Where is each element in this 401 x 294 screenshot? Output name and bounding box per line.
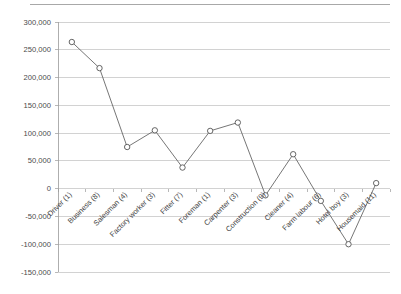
y-axis-tick-label: 300,000	[24, 18, 51, 27]
data-point-marker[interactable]	[97, 65, 102, 70]
data-point-marker[interactable]	[180, 165, 185, 170]
gridlines-group	[58, 22, 390, 272]
x-axis-category-labels: Driver (1)Business (8)Salesman (4)Factor…	[45, 190, 377, 239]
y-axis-tick-label: 50,000	[28, 156, 51, 165]
y-axis-tick-labels: 300,000250,000200,000150,000100,00050,00…	[21, 18, 51, 277]
x-axis-category-label: Driver (1)	[45, 190, 73, 218]
y-axis-tick-label: -150,000	[21, 268, 51, 277]
y-axis-tick-label: 250,000	[24, 45, 51, 54]
y-axis-tick-label: -100,000	[21, 240, 51, 249]
y-axis-tick-label: 100,000	[24, 129, 51, 138]
data-series-markers	[69, 39, 379, 247]
data-point-marker[interactable]	[235, 120, 240, 125]
data-point-marker[interactable]	[124, 144, 129, 149]
data-point-marker[interactable]	[152, 128, 157, 133]
chart-container: 300,000250,000200,000150,000100,00050,00…	[0, 0, 401, 294]
x-axis-tick-marks	[58, 189, 390, 192]
data-point-marker[interactable]	[373, 180, 378, 185]
data-point-marker[interactable]	[69, 39, 74, 44]
line-chart-plot: 300,000250,000200,000150,000100,00050,00…	[0, 0, 401, 294]
x-axis-category-label: Fitter (7)	[158, 190, 184, 216]
data-point-marker[interactable]	[207, 128, 212, 133]
y-axis-tick-label: 200,000	[24, 73, 51, 82]
y-axis-tick-label: 150,000	[24, 101, 51, 110]
y-axis-tick-label: 0	[47, 184, 51, 193]
data-point-marker[interactable]	[290, 152, 295, 157]
data-point-marker[interactable]	[346, 242, 351, 247]
y-axis-tick-marks	[55, 22, 59, 272]
